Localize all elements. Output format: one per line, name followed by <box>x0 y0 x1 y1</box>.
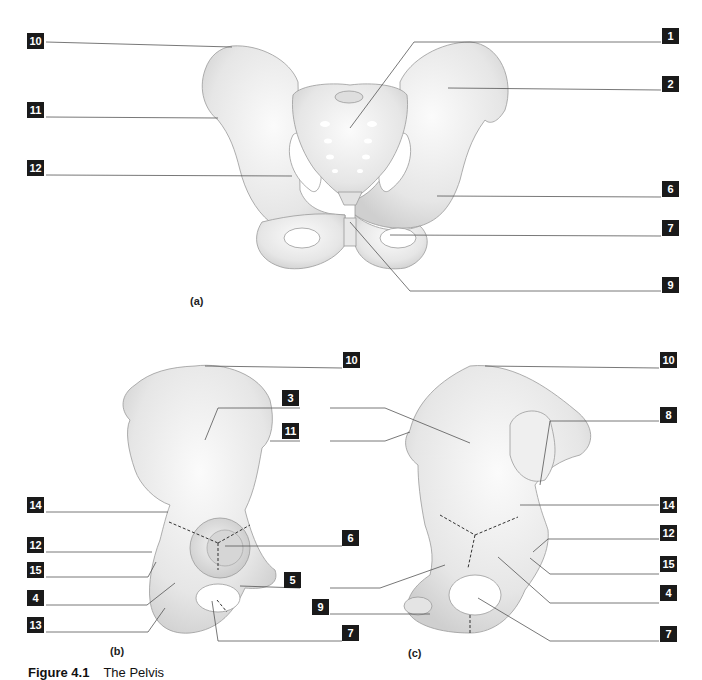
figure-number: Figure 4.1 <box>28 665 89 680</box>
figure-caption: Figure 4.1The Pelvis <box>28 665 164 680</box>
label-c-8: 8 <box>660 407 677 423</box>
view-b-hip-bone <box>123 365 276 633</box>
label-b-7: 7 <box>342 625 359 641</box>
figure-title: The Pelvis <box>103 665 164 680</box>
caption-view-c: (c) <box>408 647 421 659</box>
label-b-14: 14 <box>27 497 44 513</box>
label-c-10: 10 <box>660 352 677 368</box>
label-b-3: 3 <box>282 390 299 406</box>
label-a-2: 2 <box>662 76 679 92</box>
label-b-11: 11 <box>282 423 299 439</box>
label-c-12: 12 <box>660 525 677 541</box>
label-a-9: 9 <box>662 277 679 293</box>
label-a-7: 7 <box>662 220 679 236</box>
label-a-1: 1 <box>662 28 679 44</box>
label-a-6: 6 <box>662 181 679 197</box>
label-b-15: 15 <box>27 562 44 578</box>
view-a-pelvis <box>202 42 508 269</box>
caption-view-b: (b) <box>110 645 124 657</box>
caption-view-a: (a) <box>190 295 203 307</box>
label-b-4: 4 <box>27 590 44 606</box>
view-c-hip-bone <box>404 366 591 633</box>
label-c-14: 14 <box>660 497 677 513</box>
label-c-7: 7 <box>660 626 677 642</box>
label-a-12: 12 <box>27 160 44 176</box>
label-b-13: 13 <box>27 617 44 633</box>
label-c-15: 15 <box>660 556 677 572</box>
label-b-5: 5 <box>284 572 301 588</box>
label-c-4: 4 <box>660 585 677 601</box>
label-b-9: 9 <box>312 599 329 615</box>
label-b-6: 6 <box>342 530 359 546</box>
label-a-10: 10 <box>27 33 44 49</box>
label-b-12: 12 <box>27 537 44 553</box>
label-a-11: 11 <box>27 102 44 118</box>
label-b-10: 10 <box>343 352 360 368</box>
